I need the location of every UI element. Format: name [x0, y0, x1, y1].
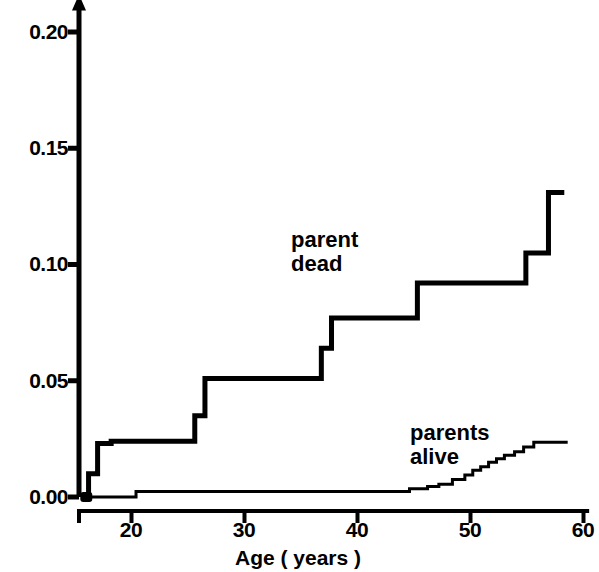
series-line-parents-alive [86, 442, 567, 497]
series-label-parents-alive-line1: parents [410, 421, 489, 445]
xtick-label-50: 50 [445, 518, 495, 542]
xtick-label-40: 40 [332, 518, 382, 542]
series-label-parent-dead-line2: dead [291, 252, 358, 276]
chart-figure: 0.20 0.15 0.10 0.05 0.00 20 30 40 50 60 … [0, 0, 599, 572]
ytick-label-0.00: 0.00 [0, 485, 68, 509]
x-axis-title: Age ( years ) [235, 546, 361, 570]
origin-marker-dot [80, 492, 92, 502]
series-label-parent-dead-line1: parent [291, 228, 358, 252]
chart-plot-area [0, 0, 599, 572]
ytick-label-0.15: 0.15 [0, 136, 68, 160]
xtick-label-20: 20 [106, 518, 156, 542]
xtick-label-30: 30 [219, 518, 269, 542]
ytick-label-0.20: 0.20 [0, 20, 68, 44]
ytick-label-0.10: 0.10 [0, 252, 68, 276]
xtick-label-60: 60 [558, 518, 599, 542]
series-label-parent-dead: parent dead [291, 228, 358, 276]
series-label-parents-alive: parents alive [410, 421, 489, 469]
y-axis-arrow-icon [72, 0, 86, 10]
series-label-parents-alive-line2: alive [410, 445, 489, 469]
ytick-label-0.05: 0.05 [0, 369, 68, 393]
